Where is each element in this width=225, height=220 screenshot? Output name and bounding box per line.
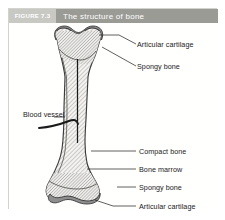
leader-articular-cartilage-bottom bbox=[95, 200, 136, 206]
figure-frame: FIGURE 7.3 The structure of bone bbox=[8, 8, 217, 209]
label-articular-cartilage-top: Articular cartilage bbox=[137, 41, 193, 48]
figure-number-badge: FIGURE 7.3 bbox=[9, 9, 56, 23]
label-spongy-bone-bottom: Spongy bone bbox=[139, 184, 182, 191]
label-compact-bone: Compact bone bbox=[139, 148, 186, 155]
label-blood-vessel: Blood vessel bbox=[23, 111, 64, 118]
figure-title: The structure of bone bbox=[56, 9, 218, 23]
label-articular-cartilage-bottom: Articular cartilage bbox=[139, 203, 195, 210]
figure-illustration-area: Articular cartilage Spongy bone Blood ve… bbox=[9, 23, 218, 209]
leader-spongy-bone-top bbox=[102, 47, 136, 66]
label-spongy-bone-top: Spongy bone bbox=[137, 63, 180, 70]
leader-articular-cartilage-top bbox=[99, 35, 136, 44]
figure-header: FIGURE 7.3 The structure of bone bbox=[9, 9, 218, 23]
label-bone-marrow: Bone marrow bbox=[139, 166, 182, 173]
